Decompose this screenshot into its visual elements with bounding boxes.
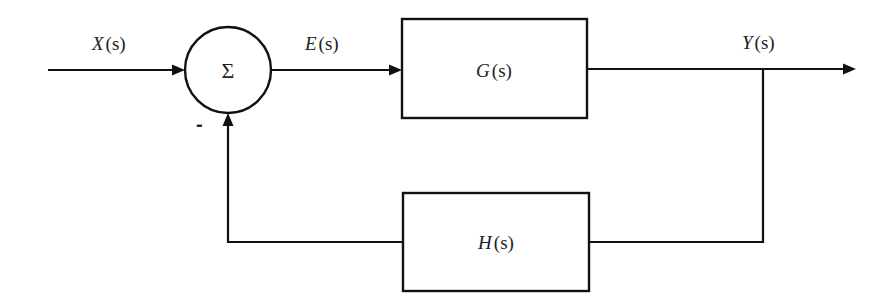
summing-junction: Σ bbox=[185, 27, 271, 113]
error-signal-arrow bbox=[271, 65, 402, 76]
feedback-block-name: H bbox=[477, 232, 493, 253]
forward-block-arg: (s) bbox=[492, 60, 512, 82]
input-signal-label: X(s) bbox=[91, 33, 126, 55]
input-signal-arrow bbox=[48, 65, 185, 76]
forward-block-g: G(s) bbox=[402, 19, 587, 118]
feedback-block-label: H(s) bbox=[477, 232, 514, 254]
feedback-return-arrow bbox=[223, 113, 404, 242]
output-signal-arg: (s) bbox=[755, 32, 775, 54]
feedback-takeoff-line bbox=[589, 69, 763, 242]
input-signal-name: X bbox=[91, 33, 105, 54]
feedback-minus-sign: - bbox=[196, 113, 203, 135]
input-signal-arg: (s) bbox=[106, 33, 126, 55]
feedback-block-diagram: X(s) Σ - E(s) G(s) Y(s) H(s) bbox=[0, 0, 896, 305]
sigma-symbol: Σ bbox=[222, 58, 235, 83]
feedback-block-arg: (s) bbox=[494, 232, 514, 254]
forward-block-label: G(s) bbox=[476, 60, 512, 82]
output-signal-label: Y(s) bbox=[742, 32, 775, 54]
feedback-block-h: H(s) bbox=[403, 193, 589, 291]
error-signal-label: E(s) bbox=[304, 33, 339, 55]
output-signal-name: Y bbox=[742, 32, 755, 53]
output-signal-arrow bbox=[587, 64, 856, 75]
forward-block-name: G bbox=[476, 60, 490, 81]
error-signal-name: E bbox=[304, 33, 317, 54]
error-signal-arg: (s) bbox=[319, 33, 339, 55]
